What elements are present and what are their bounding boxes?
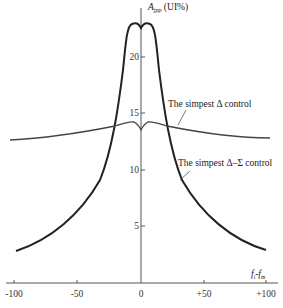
delta-sigma-control-annotation: The simpest Δ–Σ control [178, 158, 273, 168]
chart: -100 -50 0 +50 +100 5 10 15 20 Ajpp (UI%… [0, 0, 283, 308]
y-tick-label: 10 [130, 165, 140, 175]
x-axis-label: fi-fm [251, 269, 266, 280]
x-tick-label: +50 [197, 289, 212, 299]
delta-leader [178, 110, 186, 125]
y-tick-label: 15 [130, 108, 140, 118]
y-tick-label: 20 [130, 52, 140, 62]
delta-sigma-leader [180, 171, 190, 180]
y-tick-label: 5 [134, 221, 139, 231]
x-tick-label: +100 [256, 289, 276, 299]
x-tick-label: -50 [71, 289, 84, 299]
delta-curve [10, 122, 270, 140]
y-ticks: 5 10 15 20 [130, 52, 146, 231]
y-axis-label: Ajpp (UI%) [147, 2, 188, 13]
x-tick-label: 0 [139, 289, 144, 299]
delta-control-annotation: The simpest Δ control [168, 99, 252, 109]
x-tick-label: -100 [5, 289, 23, 299]
